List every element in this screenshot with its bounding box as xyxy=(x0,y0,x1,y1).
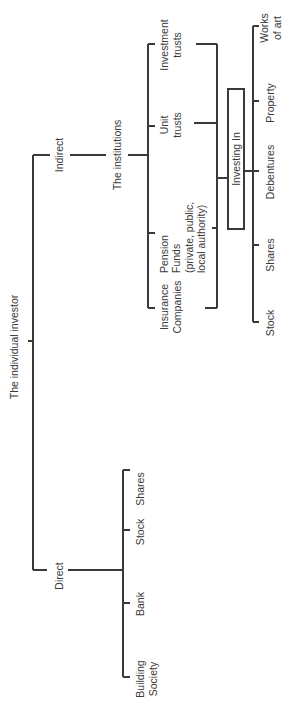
direct-bank-label: Bank xyxy=(134,591,146,616)
indirect-label: Indirect xyxy=(53,138,65,173)
investment-trusts-line-1: Investment xyxy=(158,19,170,70)
shares-label: Shares xyxy=(264,238,276,271)
property-label: Property xyxy=(264,82,276,122)
unit-trusts-line-2: trusts xyxy=(171,112,183,138)
debentures-label: Debentures xyxy=(264,145,276,199)
insurance-companies-line-1: Insurance xyxy=(158,284,170,330)
investment-trusts-line-2: trusts xyxy=(171,32,183,58)
institutions-label: The institutions xyxy=(111,120,123,191)
investing-in-label: Investing In xyxy=(230,132,242,186)
works-of-art-line-2: of art xyxy=(271,16,283,40)
direct-label: Direct xyxy=(53,562,65,590)
direct-stock-label: Stock xyxy=(134,518,146,545)
building-society-line-1: Building xyxy=(134,660,146,698)
unit-trusts-line-1: Unit xyxy=(158,116,170,135)
building-society-line-2: Society xyxy=(147,661,159,696)
pension-funds-line-4: local authority) xyxy=(195,205,207,273)
investor-tree-diagram: The individual investor Indirect Direct … xyxy=(0,0,289,703)
works-of-art-line-1: Works xyxy=(258,13,270,43)
pension-funds-line-1: Pension xyxy=(158,235,170,273)
direct-shares-label: Shares xyxy=(134,472,146,505)
root-label: The individual investor xyxy=(8,294,20,399)
pension-funds-line-3: (private, public, xyxy=(183,202,195,273)
pension-funds-line-2: Funds xyxy=(170,244,182,273)
stock-label: Stock xyxy=(264,309,276,336)
insurance-companies-line-2: Companies xyxy=(171,280,183,333)
